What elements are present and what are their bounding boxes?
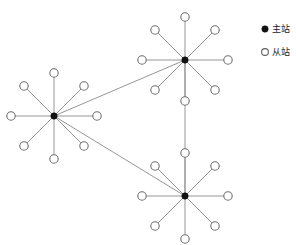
slave-node[interactable] — [211, 222, 219, 230]
spoke-link-s2-4 — [185, 60, 215, 90]
slave-node[interactable] — [20, 142, 28, 150]
master-node-layer — [51, 57, 188, 199]
spoke-link-s2-8 — [155, 30, 185, 60]
trunk-link-m1-m2 — [54, 60, 185, 116]
master-node-bottom-master[interactable] — [182, 193, 188, 199]
spoke-link-s1-2 — [54, 86, 84, 116]
spoke-link-s1-8 — [24, 86, 54, 116]
slave-node-layer — [7, 13, 232, 243]
slave-node[interactable] — [211, 162, 219, 170]
slave-node[interactable] — [93, 112, 101, 120]
trunk-link-m1-m3 — [54, 116, 185, 196]
slave-node[interactable] — [211, 86, 219, 94]
trunk-link-layer — [54, 60, 185, 196]
spoke-link-layer — [11, 17, 228, 239]
diagram-canvas: 主站从站 — [0, 0, 296, 245]
legend-label-master: 主站 — [272, 23, 290, 34]
slave-node[interactable] — [80, 82, 88, 90]
slave-node[interactable] — [50, 69, 58, 77]
spoke-link-s3-4 — [185, 196, 215, 226]
slave-node[interactable] — [181, 97, 189, 105]
slave-node[interactable] — [151, 222, 159, 230]
slave-node[interactable] — [224, 56, 232, 64]
spoke-link-s1-6 — [24, 116, 54, 146]
spoke-link-s3-2 — [185, 166, 215, 196]
spoke-link-s3-8 — [155, 166, 185, 196]
legend: 主站从站 — [262, 23, 290, 57]
legend-label-slave: 从站 — [272, 46, 290, 57]
slave-node[interactable] — [20, 82, 28, 90]
slave-node[interactable] — [181, 149, 189, 157]
slave-node[interactable] — [138, 192, 146, 200]
master-node-left-master[interactable] — [51, 113, 57, 119]
slave-node[interactable] — [211, 26, 219, 34]
spoke-link-s1-4 — [54, 116, 84, 146]
slave-node[interactable] — [50, 155, 58, 163]
slave-node[interactable] — [151, 86, 159, 94]
slave-node[interactable] — [151, 26, 159, 34]
legend-symbol-master — [262, 26, 268, 32]
slave-node[interactable] — [151, 162, 159, 170]
slave-node[interactable] — [138, 56, 146, 64]
slave-node[interactable] — [181, 13, 189, 21]
spoke-link-s2-6 — [155, 60, 185, 90]
master-node-top-master[interactable] — [182, 57, 188, 63]
slave-node[interactable] — [7, 112, 15, 120]
network-topology-diagram: 主站从站 — [0, 0, 296, 245]
spoke-link-s3-6 — [155, 196, 185, 226]
slave-node[interactable] — [80, 142, 88, 150]
slave-node[interactable] — [224, 192, 232, 200]
slave-node[interactable] — [181, 235, 189, 243]
spoke-link-s2-2 — [185, 30, 215, 60]
legend-symbol-slave — [262, 49, 269, 56]
